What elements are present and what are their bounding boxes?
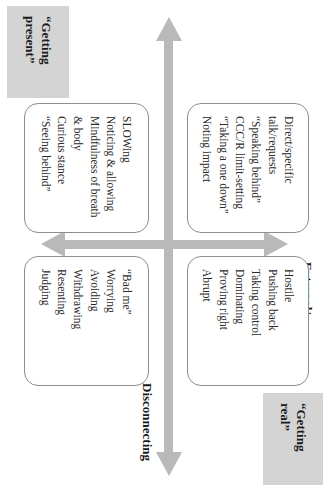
quadrant-item: Noting impact: [199, 116, 215, 220]
quadrant-item: Resenting: [54, 269, 70, 373]
corner-label-line-1: “Getting: [38, 16, 54, 98]
quadrant-item: “Speaking behind”: [248, 116, 264, 220]
quadrant-item: talk/requests: [264, 116, 280, 220]
quadrant-item: Curious stance: [54, 116, 70, 220]
axis-label-disconnecting: Disconnecting: [140, 383, 155, 461]
quadrant-item: Dominating: [232, 269, 248, 373]
quadrant-item: Judging: [38, 269, 54, 373]
horizontal-axis-line: [164, 40, 173, 454]
corner-label-line-2: present”: [22, 16, 38, 98]
quadrant-item: Noticing & allowing: [103, 116, 119, 220]
arrow-right-icon: [156, 452, 182, 476]
quadrant-item: Pushing back: [264, 269, 280, 373]
quadrant-item: “Taking a one down”: [215, 116, 231, 220]
quadrant-item: CCC/R limit-setting: [232, 116, 248, 220]
diagram-rotator: External/ doing Internal/ experiencing D…: [0, 0, 333, 494]
quadrant-item: Withdrawing: [70, 269, 86, 373]
quadrant-item: & body: [70, 116, 86, 220]
quadrant-box-bottom-left: SLOWing Noticing & allowing Mindfulness …: [24, 103, 149, 233]
quadrant-item: Taking control: [248, 269, 264, 373]
arrow-left-icon: [156, 17, 182, 41]
quadrant-item: Avoiding: [87, 269, 103, 373]
quadrant-item: SLOWing: [119, 116, 135, 220]
quadrant-box-top-right: Hostile Pushing back Taking control Domi…: [187, 256, 309, 386]
quadrant-item: Abrupt: [199, 269, 215, 373]
quadrant-diagram: External/ doing Internal/ experiencing D…: [0, 0, 333, 494]
corner-label-line-1: “Getting: [293, 403, 309, 485]
quadrant-item: Direct/specific: [281, 116, 297, 220]
arrow-up-icon: [264, 231, 288, 257]
quadrant-item: Worrying: [103, 269, 119, 373]
quadrant-item: “Bad me”: [119, 269, 135, 373]
quadrant-item: Mindfulness of breath: [87, 116, 103, 220]
corner-label-getting-present: “Getting present”: [7, 6, 69, 98]
quadrant-box-bottom-right: “Bad me” Worrying Avoiding Withdrawing R…: [24, 256, 149, 386]
quadrant-box-top-left: Direct/specific talk/requests “Speaking …: [187, 103, 309, 233]
corner-label-getting-real: “Getting real”: [263, 393, 323, 485]
quadrant-item: Proving right: [215, 269, 231, 373]
quadrant-item: Hostile: [281, 269, 297, 373]
corner-label-line-2: real”: [277, 403, 293, 485]
quadrant-item: “Seeing behind”: [38, 116, 54, 220]
arrow-down-icon: [41, 231, 65, 257]
